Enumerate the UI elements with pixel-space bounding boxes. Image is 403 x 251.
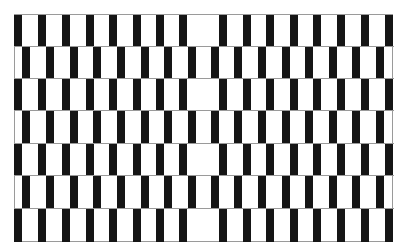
black-tile [385,15,393,46]
black-tile [86,79,94,110]
black-tile [258,111,266,143]
black-tile [329,176,337,208]
black-tile [211,176,219,208]
black-tile [258,47,266,78]
black-tile [156,79,164,110]
black-tile [361,144,369,175]
black-tile [188,176,196,208]
black-tile [156,209,164,242]
black-tile [305,47,313,78]
black-tile [93,47,101,78]
black-tile [282,111,290,143]
black-tile [133,209,141,242]
black-tile [109,209,117,242]
black-tile [352,111,360,143]
black-tile [376,176,384,208]
black-tile [46,176,54,208]
black-tile [86,209,94,242]
black-tile [70,176,78,208]
black-tile [22,111,30,143]
black-tile [243,209,251,242]
black-tile [62,144,70,175]
black-tile [62,209,70,242]
black-tile [290,15,298,46]
black-tile [243,79,251,110]
tile-row [15,176,394,209]
black-tile [305,176,313,208]
black-tile [352,47,360,78]
black-tile [164,47,172,78]
black-tile [38,15,46,46]
black-tile [109,15,117,46]
black-tile [337,15,345,46]
black-tile [352,176,360,208]
black-tile [361,79,369,110]
black-tile [337,144,345,175]
black-tile [133,15,141,46]
black-tile [243,144,251,175]
black-tile [22,47,30,78]
black-tile [14,79,22,110]
black-tile [313,209,321,242]
black-tile [133,144,141,175]
black-tile [62,79,70,110]
black-tile [93,176,101,208]
tile-row [15,47,394,79]
tile-row [15,111,394,144]
black-tile [117,176,125,208]
black-tile [385,144,393,175]
black-tile [337,79,345,110]
tile-row [15,209,394,243]
black-tile [141,111,149,143]
black-tile [282,47,290,78]
black-tile [313,79,321,110]
tile-grid [14,14,393,242]
black-tile [22,176,30,208]
black-tile [14,144,22,175]
black-tile [282,176,290,208]
black-tile [361,15,369,46]
black-tile [179,209,187,242]
black-tile [234,176,242,208]
black-tile [290,144,298,175]
black-tile [70,47,78,78]
black-tile [385,209,393,242]
black-tile [234,47,242,78]
black-tile [211,47,219,78]
black-tile [313,15,321,46]
black-tile [164,111,172,143]
black-tile [266,15,274,46]
black-tile [14,209,22,242]
black-tile [62,15,70,46]
black-tile [14,15,22,46]
tile-row [15,79,394,111]
black-tile [290,79,298,110]
black-tile [337,209,345,242]
black-tile [266,209,274,242]
black-tile [141,176,149,208]
black-tile [109,79,117,110]
black-tile [219,209,227,242]
black-tile [38,209,46,242]
black-tile [46,111,54,143]
black-tile [376,111,384,143]
black-tile [109,144,117,175]
illusion-figure [0,0,403,251]
black-tile [258,176,266,208]
black-tile [385,79,393,110]
black-tile [46,47,54,78]
black-tile [156,15,164,46]
black-tile [38,79,46,110]
black-tile [93,111,101,143]
black-tile [219,144,227,175]
black-tile [313,144,321,175]
black-tile [141,47,149,78]
black-tile [156,144,164,175]
black-tile [179,79,187,110]
tile-row [15,15,394,47]
black-tile [86,144,94,175]
black-tile [243,15,251,46]
black-tile [376,47,384,78]
black-tile [329,111,337,143]
black-tile [117,111,125,143]
